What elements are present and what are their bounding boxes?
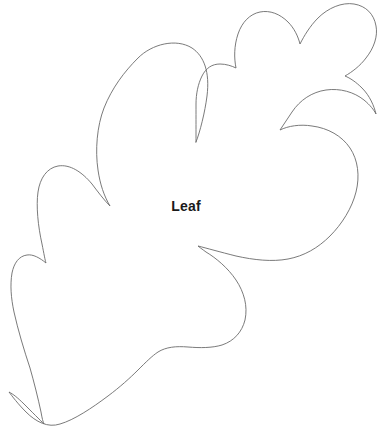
- shape-label: Leaf: [0, 198, 377, 214]
- leaf-outline-svg: [0, 0, 382, 431]
- drawing-canvas: Leaf: [0, 0, 382, 431]
